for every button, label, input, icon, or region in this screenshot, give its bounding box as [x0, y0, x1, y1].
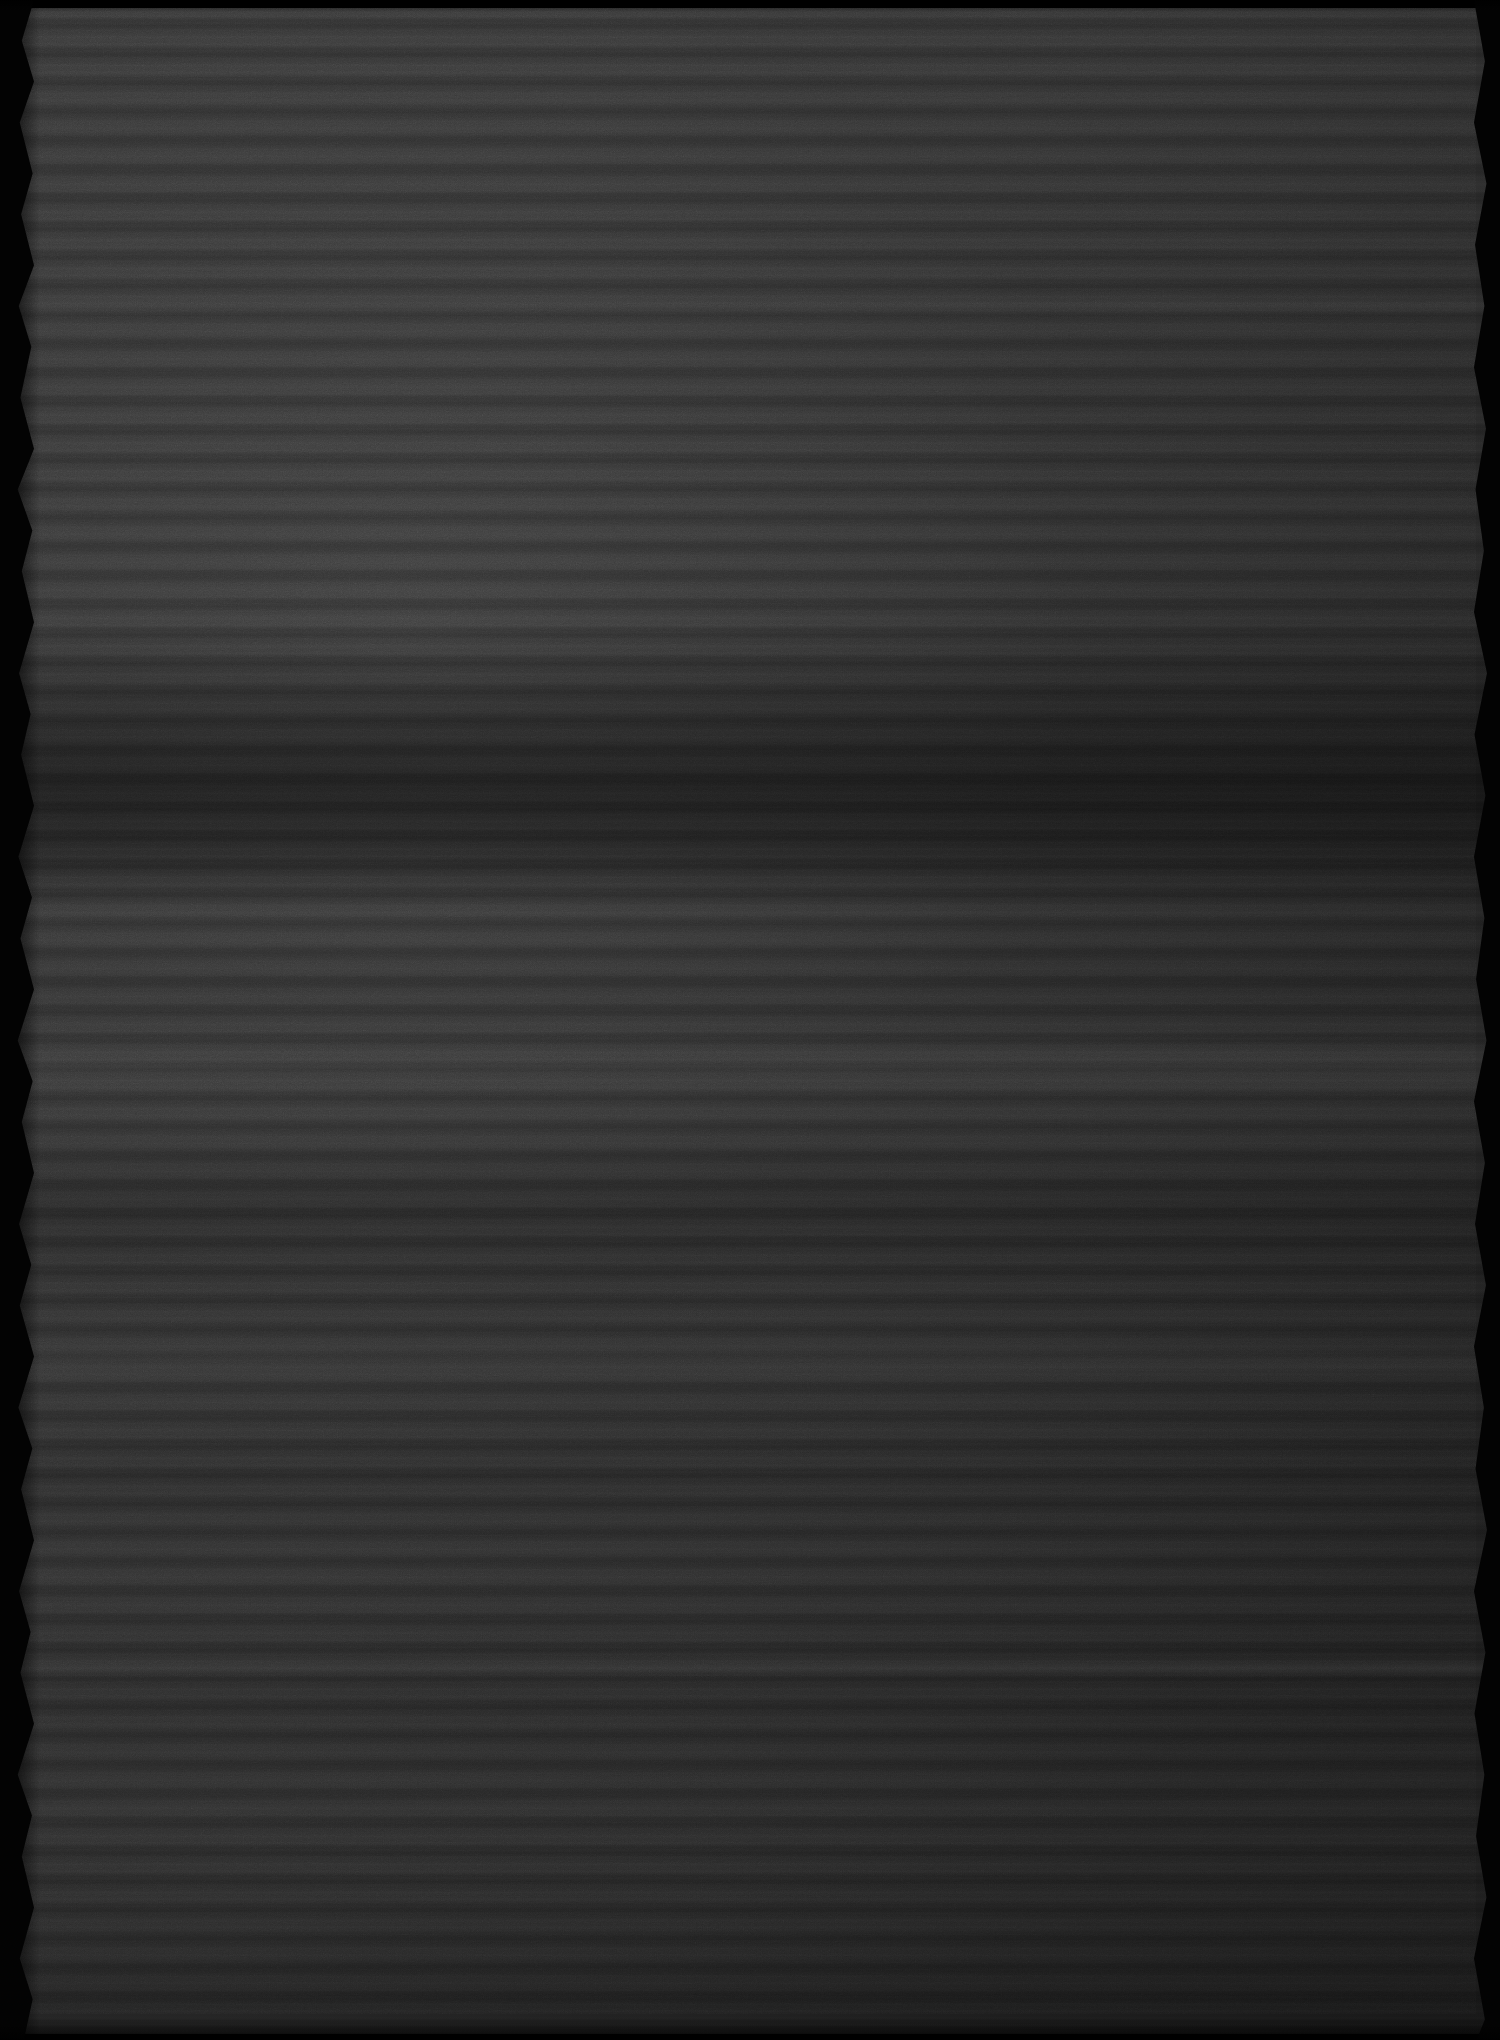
- scanned-page-root: Severely underexposed scan of a printed …: [0, 0, 1500, 2040]
- scanned-sheet: Severely underexposed scan of a printed …: [14, 8, 1496, 2034]
- scanner-streak-layer: [14, 8, 1496, 2034]
